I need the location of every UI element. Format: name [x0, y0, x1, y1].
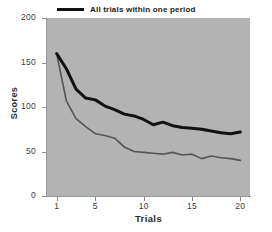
y-tick-label: 200 — [6, 13, 36, 22]
y-tick-label: 150 — [6, 58, 36, 67]
plot-area — [47, 18, 250, 196]
x-tick-mark — [192, 196, 193, 201]
x-tick-label: 5 — [83, 201, 107, 211]
legend-swatch-black — [57, 8, 84, 11]
x-axis-title: Trials — [47, 213, 250, 224]
y-tick-label: 100 — [6, 102, 36, 111]
x-tick-mark — [95, 196, 96, 201]
x-tick-label: 15 — [180, 201, 204, 211]
legend-label-all-trials-within-one-period: All trials within one period — [90, 5, 196, 14]
legend-item-all-trials-within-one-period: All trials within one period — [57, 4, 196, 15]
y-tick-label: 50 — [6, 147, 36, 156]
x-tick-label: 10 — [132, 201, 156, 211]
x-tick-mark — [240, 196, 241, 201]
x-tick-label: 1 — [45, 201, 69, 211]
x-tick-label: 20 — [228, 201, 252, 211]
x-tick-mark — [57, 196, 58, 201]
y-tick-mark — [42, 196, 47, 197]
x-tick-mark — [144, 196, 145, 201]
y-tick-label: 0 — [6, 191, 36, 200]
chart-figure: All trials within one period One trial p… — [0, 0, 272, 232]
plot-series-svg — [47, 18, 250, 196]
x-axis-line — [46, 196, 251, 197]
series-line-one-trial-per-day — [57, 54, 241, 134]
series-line-all-trials-within-one-period — [57, 54, 241, 161]
